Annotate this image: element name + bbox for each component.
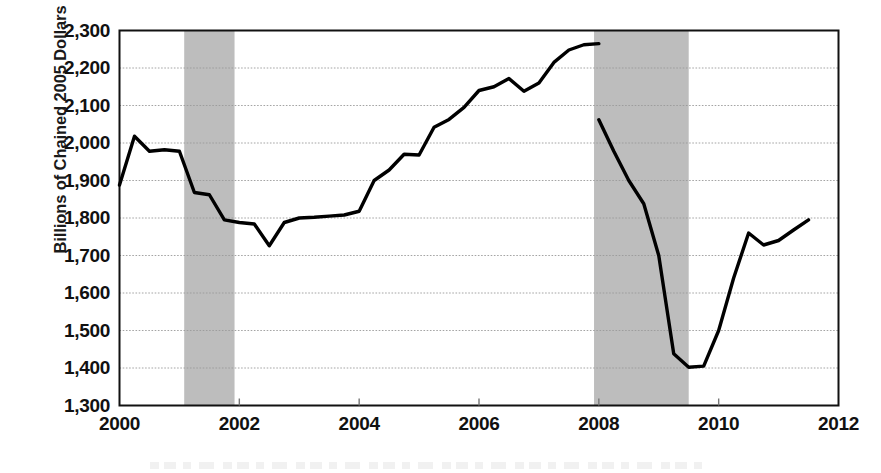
caption-ghost xyxy=(150,462,710,469)
chart-figure: Billions of Chained 2005 Dollars 1,3001,… xyxy=(0,0,881,473)
plot-area xyxy=(0,0,881,473)
